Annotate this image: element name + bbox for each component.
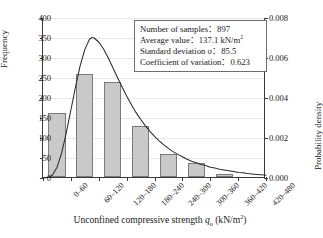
y-axis-right-tick-label: 0.004 [269, 94, 309, 103]
stat-label-cov: Coefficient of variation [140, 57, 221, 67]
x-axis-title: Unconfined compressive strength qu (kN/m… [0, 214, 320, 225]
x-axis-category-label: 0–60 [72, 181, 90, 199]
x-axis-category-label: 180–240 [159, 181, 186, 208]
x-axis-title-main: Unconfined compressive strength [74, 214, 205, 225]
y-axis-right-tick-label: 0.006 [269, 54, 309, 63]
x-axis-category-label: 420–480 [270, 181, 297, 208]
stat-line-samples: Number of samples：897 [140, 24, 262, 35]
y-axis-left-title: Frequency [0, 30, 9, 68]
x-axis-tick [210, 177, 211, 181]
y-axis-left-tick-label: 200 [17, 94, 51, 103]
x-axis-tick [266, 177, 267, 181]
stat-line-stdev: Standard deviation σ：85.5 [140, 46, 262, 57]
x-axis-tick [238, 177, 239, 181]
x-axis-tick [127, 177, 128, 181]
stat-value-samples: 897 [217, 24, 230, 34]
stat-sep-2: ： [190, 35, 199, 45]
stat-line-cov: Coefficient of variation：0.623 [140, 57, 262, 68]
stat-value-stdev: 85.5 [221, 46, 236, 56]
y-axis-left-tick-label: 350 [17, 34, 51, 43]
stat-sep-3: ： [212, 46, 221, 56]
x-axis-tick [71, 177, 72, 181]
y-axis-left-tick-label: 300 [17, 54, 51, 63]
statistics-box: Number of samples：897 Average value：137.… [134, 20, 267, 72]
stat-sep-1: ： [208, 24, 217, 34]
stat-label-stdev: Standard deviation σ [140, 46, 212, 56]
stat-value-average-unit-sup: 2 [240, 34, 243, 40]
x-axis-category-label: 360–420 [243, 181, 270, 208]
x-axis-title-units-close: ) [243, 214, 246, 225]
x-axis-category-label: 120–180 [131, 181, 158, 208]
y-axis-left-tick-label: 0 [17, 174, 51, 183]
stat-line-average: Average value：137.1 kN/m2 [140, 35, 262, 46]
y-axis-right-tick-label: 0.002 [269, 134, 309, 143]
stat-value-cov: 0.623 [230, 57, 250, 67]
y-axis-right-title: Probability density [313, 102, 323, 170]
y-axis-left-tick-label: 50 [17, 154, 51, 163]
x-axis-tick [182, 177, 183, 181]
y-axis-right-tick-label: 0.008 [269, 14, 309, 23]
stat-label-samples: Number of samples [140, 24, 208, 34]
stat-value-average: 137.1 kN/m [199, 35, 241, 45]
x-axis-tick [155, 177, 156, 181]
y-axis-left-tick-label: 150 [17, 114, 51, 123]
stat-label-average: Average value [140, 35, 190, 45]
y-axis-left-tick-label: 250 [17, 74, 51, 83]
x-axis-category-label: 60–120 [102, 181, 126, 205]
x-axis-category-label: 240–300 [187, 181, 214, 208]
x-axis-category-label: 300–360 [215, 181, 242, 208]
y-axis-left-tick-label: 100 [17, 134, 51, 143]
x-axis-title-units-open: (kN/m [213, 214, 240, 225]
y-axis-left-tick-label: 400 [17, 14, 51, 23]
x-axis-tick [99, 177, 100, 181]
